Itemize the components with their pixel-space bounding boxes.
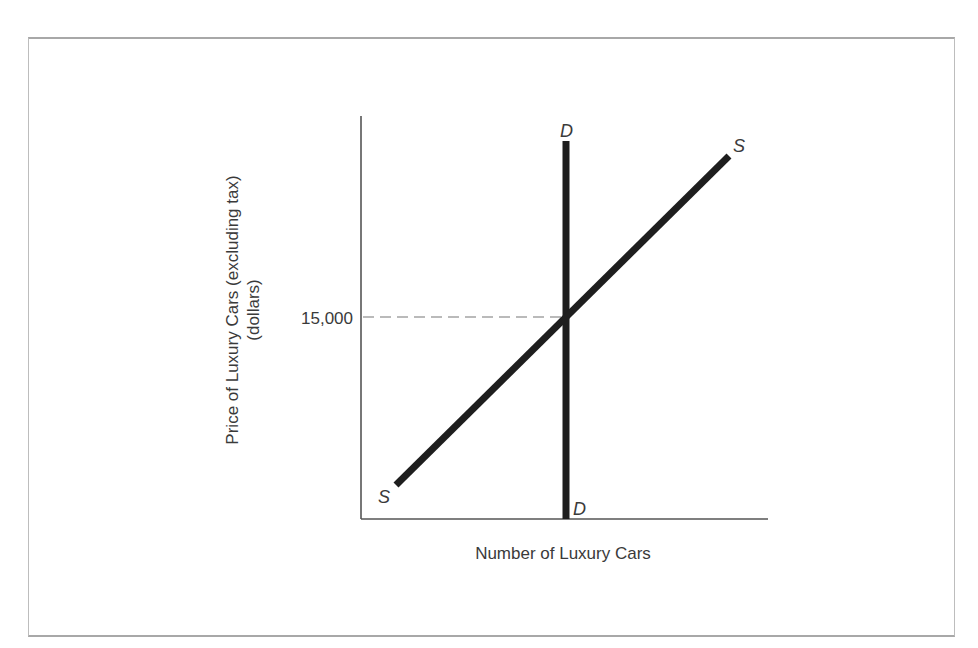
y-axis-subtitle: (dollars) [244, 279, 263, 340]
supply-label-top: S [733, 136, 745, 156]
demand-label-top: D [560, 121, 573, 141]
y-axis-title: Price of Luxury Cars (excluding tax) [223, 175, 242, 444]
y-tick-15000: 15,000 [301, 309, 353, 328]
demand-label-bottom: D [573, 499, 586, 519]
supply-demand-chart: D D S S 15,000 Number of Luxury Cars Pri… [0, 0, 978, 648]
x-axis-title: Number of Luxury Cars [475, 544, 651, 563]
supply-label-bottom: S [378, 487, 390, 507]
